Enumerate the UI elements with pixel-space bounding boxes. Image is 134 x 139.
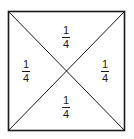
fraction-label-left: 1 4 xyxy=(18,59,34,84)
numerator: 1 xyxy=(63,25,69,36)
fraction-label-bottom: 1 4 xyxy=(58,95,74,120)
numerator: 1 xyxy=(63,95,69,106)
numerator: 1 xyxy=(23,59,29,70)
numerator: 1 xyxy=(102,59,108,70)
denominator: 4 xyxy=(63,109,69,120)
denominator: 4 xyxy=(102,73,108,84)
denominator: 4 xyxy=(63,39,69,50)
fraction-square-diagram: 1 4 1 4 1 4 1 4 xyxy=(0,0,134,139)
fraction-label-right: 1 4 xyxy=(97,59,113,84)
fraction-label-top: 1 4 xyxy=(58,25,74,50)
denominator: 4 xyxy=(23,73,29,84)
